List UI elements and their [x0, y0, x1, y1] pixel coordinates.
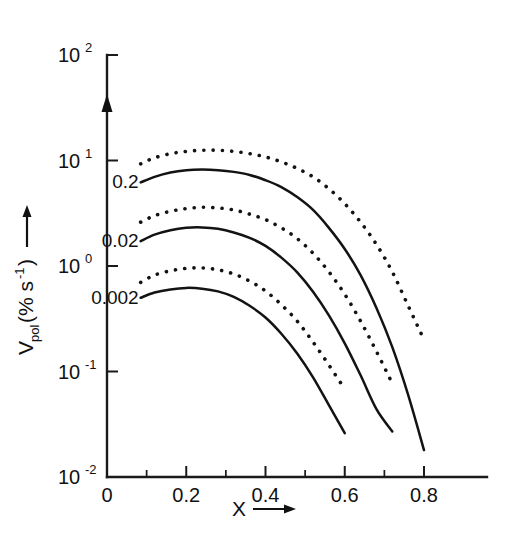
curve-label-0-02: 0.02 — [102, 230, 139, 251]
y-tick-exponent-3: -1 — [85, 357, 97, 372]
y-tick-label-0: 102 — [58, 40, 92, 66]
x-tick-labels: 00.20.40.60.8 — [101, 484, 437, 506]
x-tick-label-0: 0 — [101, 484, 112, 506]
y-axis-title: V pol (% s -1 ) — [12, 205, 42, 355]
y-tick-exponent-0: 2 — [85, 40, 92, 55]
data-curves — [141, 150, 424, 450]
y-tick-exponent-1: 1 — [85, 146, 92, 161]
x-tick-label-3: 0.6 — [331, 484, 359, 506]
x-tick-label-1: 0.2 — [172, 484, 200, 506]
y-tick-label-2: 100 — [58, 251, 92, 277]
x-axis: 00.20.40.60.8 — [101, 466, 487, 506]
x-tick-marks — [107, 466, 424, 477]
y-tick-mantissa-2: 10 — [58, 255, 80, 277]
y-tick-exponent-4: -2 — [85, 462, 97, 477]
x-tick-label-4: 0.8 — [410, 484, 438, 506]
curve-label-0-2: 0.2 — [112, 171, 138, 192]
y-tick-label-3: 10-1 — [58, 357, 97, 383]
curve-dotted-2 — [141, 207, 393, 383]
x-axis-title-text: X — [232, 497, 246, 520]
curve-dotted-0 — [141, 150, 424, 340]
curve-solid-1 — [141, 170, 424, 450]
semilog-plot: 10210110010-110-2 00.20.40.60.8 0.20.020… — [0, 0, 521, 554]
curve-labels: 0.20.020.002 — [91, 171, 139, 307]
y-axis-arrow-head — [102, 94, 113, 112]
curve-dotted-4 — [141, 268, 345, 389]
y-axis-title-subscript: pol — [27, 325, 42, 342]
y-tick-mantissa-4: 10 — [58, 466, 80, 488]
y-tick-mantissa-1: 10 — [58, 150, 80, 172]
curve-solid-3 — [141, 227, 393, 431]
chart-figure: 10210110010-110-2 00.20.40.60.8 0.20.020… — [0, 0, 521, 554]
y-tick-label-4: 10-2 — [58, 462, 97, 488]
y-axis-title-arrow-head — [23, 205, 32, 217]
y-tick-marks — [107, 55, 118, 477]
curve-solid-5 — [141, 288, 345, 433]
y-tick-exponent-2: 0 — [85, 251, 92, 266]
y-tick-mantissa-0: 10 — [58, 44, 80, 66]
y-axis-title-unit-exponent: -1 — [12, 267, 27, 279]
y-axis-title-main: V — [14, 341, 37, 355]
curve-label-0-002: 0.002 — [91, 287, 139, 308]
y-tick-labels: 10210110010-110-2 — [58, 40, 97, 488]
y-tick-label-1: 101 — [58, 146, 92, 172]
y-axis: 10210110010-110-2 — [58, 40, 118, 488]
y-axis-title-unit: (% s — [14, 281, 37, 323]
x-axis-title-arrow-head — [284, 505, 296, 514]
y-axis-title-unit-close: ) — [14, 259, 37, 266]
x-tick-label-2: 0.4 — [252, 484, 280, 506]
y-tick-mantissa-3: 10 — [58, 361, 80, 383]
